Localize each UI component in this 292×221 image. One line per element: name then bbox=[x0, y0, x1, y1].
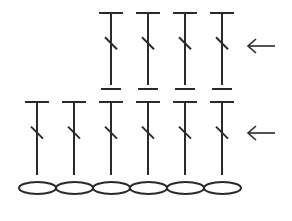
double-crochet-icon bbox=[136, 102, 160, 175]
double-crochet-icon bbox=[173, 13, 197, 89]
row-1 bbox=[25, 102, 234, 175]
double-crochet-icon bbox=[99, 13, 123, 89]
chain-stitch-icon bbox=[93, 182, 130, 194]
crochet-chart bbox=[0, 0, 292, 221]
double-crochet-icon bbox=[173, 102, 197, 175]
row-direction-arrows bbox=[248, 39, 275, 140]
chain-stitch-icon bbox=[19, 182, 56, 194]
double-crochet-icon bbox=[99, 102, 123, 175]
row-2 bbox=[99, 13, 234, 89]
chain-stitch-icon bbox=[56, 182, 93, 194]
double-crochet-icon bbox=[25, 102, 49, 175]
double-crochet-icon bbox=[136, 13, 160, 89]
double-crochet-icon bbox=[62, 102, 86, 175]
double-crochet-icon bbox=[210, 102, 234, 175]
double-crochet-icon bbox=[210, 13, 234, 89]
chain-stitch-icon bbox=[130, 182, 167, 194]
arrow-left-icon bbox=[248, 126, 275, 140]
stitch-rows bbox=[25, 13, 234, 175]
chain-stitch-icon bbox=[167, 182, 204, 194]
foundation-chain bbox=[19, 182, 241, 194]
arrow-left-icon bbox=[248, 39, 275, 53]
chain-stitch-icon bbox=[204, 182, 241, 194]
